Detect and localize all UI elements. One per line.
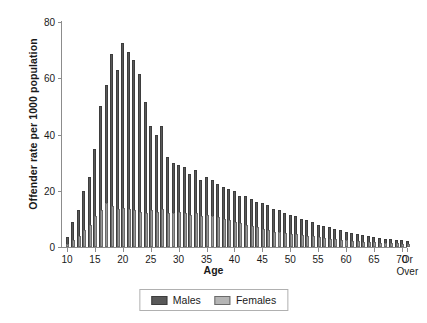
bar-female [278, 232, 281, 247]
y-axis-tick-mark [58, 135, 62, 136]
x-axis-tick-mark [262, 248, 263, 252]
x-axis-tick-mark [67, 248, 68, 252]
bar-female [301, 235, 304, 247]
bar-female [373, 242, 376, 247]
x-axis-tick-mark [123, 248, 124, 252]
bar-female [390, 243, 393, 247]
bar-female [195, 213, 198, 247]
bar-female [396, 243, 399, 247]
bar-female [329, 239, 332, 247]
x-axis-tick-mark [95, 248, 96, 252]
bar-female [78, 236, 81, 247]
bar-female [223, 219, 226, 247]
bar-female [407, 244, 410, 247]
x-axis-tick-mark [290, 248, 291, 252]
bar-female [295, 234, 298, 247]
y-axis-tick-mark [58, 191, 62, 192]
bar-female [66, 244, 69, 247]
y-axis-tick-mark [58, 78, 62, 79]
offender-rate-bar-chart: Offender rate per 1000 population 020406… [0, 0, 427, 323]
bar-female [306, 236, 309, 247]
bar-female [379, 243, 382, 248]
bar-female [368, 242, 371, 247]
x-axis-tick-mark-or-over [407, 248, 408, 252]
bar-female [273, 232, 276, 247]
bar-female [351, 241, 354, 247]
bar-female [83, 230, 86, 247]
legend-item-females: Females [214, 294, 276, 306]
bar-female [284, 233, 287, 247]
bar-female [145, 213, 148, 247]
bar-female [133, 210, 136, 247]
bar-female [161, 209, 164, 247]
bar-female [290, 234, 293, 248]
bar-female [239, 223, 242, 247]
bar-female [139, 212, 142, 247]
bar-female [105, 203, 108, 247]
bar-female [318, 237, 321, 247]
bar-female [117, 209, 120, 247]
bar-female [189, 215, 192, 247]
bar-female [89, 225, 92, 248]
bar-female [256, 227, 259, 247]
bar-female [362, 242, 365, 247]
plot-area: 020406080 [62, 22, 406, 247]
bar-female [100, 210, 103, 247]
x-axis-tick-mark [234, 248, 235, 252]
bar-female [156, 212, 159, 247]
bar-female [334, 239, 337, 247]
x-axis-tick-mark [346, 248, 347, 252]
bar-female [228, 220, 231, 247]
bar-female [401, 244, 404, 247]
x-axis-tick-mark [179, 248, 180, 252]
bar-female [167, 213, 170, 247]
bar-female [184, 213, 187, 247]
bar-female [211, 216, 214, 247]
bar-female [357, 241, 360, 247]
bar-female [345, 240, 348, 247]
legend-swatch-females-icon [214, 296, 230, 305]
bar-female [128, 209, 131, 247]
x-axis-tick-mark [207, 248, 208, 252]
bar-female [122, 208, 125, 247]
bar-female [200, 216, 203, 247]
chart-legend: Males Females [139, 289, 288, 311]
bar-female [172, 213, 175, 247]
bar-female [72, 240, 75, 247]
bar-female [94, 216, 97, 247]
bar-female [245, 225, 248, 248]
legend-label-females: Females [236, 294, 276, 306]
bar-female [262, 229, 265, 247]
x-axis-tick-mark [151, 248, 152, 252]
legend-item-males: Males [151, 294, 201, 306]
legend-swatch-males-icon [151, 296, 167, 305]
x-axis-tick-mark [402, 248, 403, 252]
bar-female [217, 217, 220, 247]
bar-female [206, 215, 209, 247]
legend-label-males: Males [173, 294, 201, 306]
y-axis-title: Offender rate per 1000 population [27, 14, 39, 234]
bar-female [111, 206, 114, 247]
x-axis-tick-mark [318, 248, 319, 252]
x-axis-tick-mark [374, 248, 375, 252]
y-axis-tick-mark [58, 22, 62, 23]
bar-female [384, 243, 387, 247]
x-axis-title: Age [0, 264, 427, 276]
bar-female [178, 212, 181, 247]
bar-female [323, 238, 326, 247]
bar-female [251, 226, 254, 247]
bar-female [234, 222, 237, 247]
bar-female [340, 240, 343, 247]
bar-female [267, 230, 270, 247]
bar-female [150, 210, 153, 247]
bar-female [312, 236, 315, 247]
